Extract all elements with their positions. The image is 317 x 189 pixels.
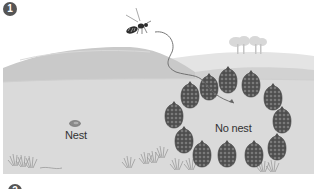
no-nest-label: No nest — [215, 122, 252, 134]
wasp-icon — [125, 8, 151, 35]
nest-label: Nest — [65, 129, 87, 141]
wasp-nest-diagram — [0, 0, 317, 189]
step-badge: 1 — [3, 2, 17, 16]
tree-cluster — [229, 36, 267, 54]
